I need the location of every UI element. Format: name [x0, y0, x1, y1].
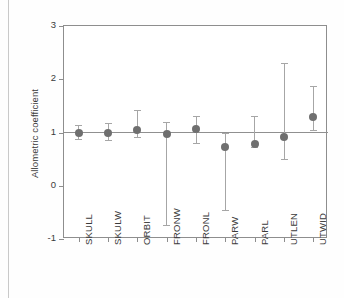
- data-point-skull: [75, 129, 83, 137]
- y-tick-label: 1: [51, 126, 56, 137]
- data-point-parl: [251, 140, 259, 148]
- x-tick: [137, 237, 138, 242]
- error-bar-cap-lower: [281, 159, 288, 160]
- error-bar-cap-lower: [105, 140, 112, 141]
- y-tick: 0: [59, 186, 64, 187]
- error-bar-cap-upper: [222, 133, 229, 134]
- x-tick: [284, 237, 285, 242]
- data-point-parw: [221, 143, 229, 151]
- error-bar-cap-upper: [251, 116, 258, 117]
- x-axis-label-fronw: FRONW: [171, 208, 182, 245]
- error-bar-cap-upper: [105, 123, 112, 124]
- data-point-fronl: [192, 125, 200, 133]
- y-tick-label: 3: [51, 19, 56, 30]
- x-tick: [79, 237, 80, 242]
- x-axis-label-fronl: FRONL: [200, 212, 211, 245]
- error-bar-cap-upper: [193, 116, 200, 117]
- error-bar-cap-upper: [310, 86, 317, 87]
- y-tick: 2: [59, 79, 64, 80]
- y-tick-label: -1: [48, 232, 56, 243]
- error-bar-cap-upper: [163, 122, 170, 123]
- x-tick: [255, 237, 256, 242]
- y-tick-label: 2: [51, 72, 56, 83]
- data-point-utwid: [309, 113, 317, 121]
- data-point-orbit: [133, 126, 141, 134]
- x-tick: [108, 237, 109, 242]
- x-tick: [196, 237, 197, 242]
- y-tick-label: 0: [51, 179, 56, 190]
- x-axis-label-utlen: UTLEN: [288, 213, 299, 245]
- error-bar-cap-lower: [222, 210, 229, 211]
- error-bar-cap-lower: [163, 225, 170, 226]
- data-point-utlen: [280, 133, 288, 141]
- error-bar-cap-lower: [193, 143, 200, 144]
- x-tick: [167, 237, 168, 242]
- x-axis-label-utwid: UTWID: [317, 213, 328, 245]
- y-tick: 1: [59, 133, 64, 134]
- y-tick: 3: [59, 26, 64, 27]
- y-tick: -1: [59, 239, 64, 240]
- error-bar: [313, 86, 314, 130]
- error-bar-cap-lower: [75, 139, 82, 140]
- x-tick: [225, 237, 226, 242]
- x-axis-label-parw: PARW: [229, 217, 240, 245]
- data-point-fronw: [163, 130, 171, 138]
- x-axis-label-orbit: ORBIT: [141, 215, 152, 245]
- error-bar-cap-lower: [310, 130, 317, 131]
- x-axis-label-skull: SKULL: [83, 214, 94, 245]
- data-point-skulw: [104, 129, 112, 137]
- error-bar-cap-upper: [281, 63, 288, 64]
- error-bar-cap-upper: [75, 125, 82, 126]
- y-axis-title: Allometric coefficient: [29, 54, 40, 214]
- x-tick: [313, 237, 314, 242]
- error-bar: [284, 63, 285, 158]
- x-axis-label-skulw: SKULW: [112, 211, 123, 245]
- plot-area: -10123 SKULLSKULWORBITFRONWFRONLPARWPARL…: [63, 25, 327, 238]
- error-bar-cap-lower: [134, 137, 141, 138]
- x-axis-label-parl: PARL: [259, 220, 270, 245]
- allometric-coefficient-chart: Allometric coefficient -10123 SKULLSKULW…: [0, 0, 344, 298]
- error-bar-cap-upper: [134, 110, 141, 111]
